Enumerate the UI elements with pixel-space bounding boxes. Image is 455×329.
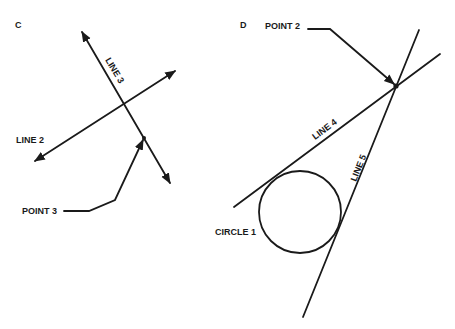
point-3-label: POINT 3 <box>22 206 57 216</box>
line-4-label: LINE 4 <box>310 117 338 142</box>
panel-c-label: C <box>15 20 22 30</box>
circle-1-label: CIRCLE 1 <box>215 227 256 237</box>
panel-d-label: D <box>240 20 247 30</box>
line-4 <box>234 54 440 207</box>
line-2 <box>35 71 175 161</box>
panel-c: C LINE 3 LINE 2 POINT 3 <box>15 20 175 216</box>
geometry-diagram: C LINE 3 LINE 2 POINT 3 D POINT 2 LINE 4… <box>0 0 455 329</box>
line-3 <box>82 32 170 183</box>
point-2-label: POINT 2 <box>265 21 300 31</box>
line-5-label: LINE 5 <box>349 153 369 183</box>
panel-d: D POINT 2 LINE 4 LINE 5 CIRCLE 1 <box>215 20 440 317</box>
point-3-leader <box>64 140 143 211</box>
line-2-label: LINE 2 <box>16 135 44 145</box>
line-3-label: LINE 3 <box>103 56 126 85</box>
point-2-leader <box>308 29 394 84</box>
circle-1 <box>259 171 341 253</box>
